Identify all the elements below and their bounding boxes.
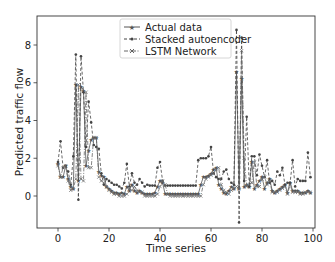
- dot-marker-icon: [75, 53, 78, 56]
- dot-marker-icon: [171, 184, 174, 187]
- dot-marker-icon: [266, 159, 269, 162]
- dot-marker-icon: [299, 180, 302, 183]
- dot-marker-icon: [169, 184, 172, 187]
- dot-marker-icon: [279, 174, 282, 177]
- dot-marker-icon: [136, 183, 139, 186]
- dot-marker-icon: [138, 178, 141, 181]
- dot-marker-icon: [118, 185, 121, 188]
- dot-marker-icon: [141, 181, 144, 184]
- dot-marker-icon: [192, 184, 195, 187]
- dot-marker-icon: [149, 184, 152, 187]
- dot-marker-icon: [77, 198, 80, 201]
- star-marker-icon: ★: [129, 24, 135, 32]
- dot-marker-icon: [197, 159, 200, 162]
- dot-marker-icon: [177, 184, 180, 187]
- dot-marker-icon: [159, 161, 162, 164]
- dot-marker-icon: [253, 155, 256, 158]
- dot-marker-icon: [304, 180, 307, 183]
- dot-marker-icon: [130, 37, 133, 40]
- dot-marker-icon: [100, 172, 103, 175]
- dot-marker-icon: [258, 153, 261, 156]
- dot-marker-icon: [286, 181, 289, 184]
- dot-marker-icon: [115, 183, 118, 186]
- dot-marker-icon: [307, 151, 310, 154]
- dot-marker-icon: [113, 183, 116, 186]
- legend-label: LSTM Network: [145, 46, 217, 57]
- dot-marker-icon: [105, 178, 108, 181]
- dot-marker-icon: [271, 180, 274, 183]
- dot-marker-icon: [281, 166, 284, 169]
- dot-marker-icon: [233, 183, 236, 186]
- dot-marker-icon: [69, 183, 72, 186]
- dot-marker-icon: [243, 180, 246, 183]
- dot-marker-icon: [302, 180, 305, 183]
- dot-marker-icon: [251, 155, 254, 158]
- dot-marker-icon: [189, 184, 192, 187]
- y-tick-label: 4: [25, 115, 31, 126]
- dot-marker-icon: [90, 121, 93, 124]
- dot-marker-icon: [151, 184, 154, 187]
- dot-marker-icon: [187, 184, 190, 187]
- dot-marker-icon: [309, 176, 312, 179]
- dot-marker-icon: [59, 140, 62, 143]
- y-axis-label: Predicted traffic flow: [13, 67, 25, 176]
- dot-marker-icon: [182, 184, 185, 187]
- dot-marker-icon: [238, 221, 241, 224]
- dot-marker-icon: [133, 181, 136, 184]
- dot-marker-icon: [98, 148, 101, 151]
- dot-marker-icon: [202, 157, 205, 160]
- dot-marker-icon: [200, 157, 203, 160]
- dot-marker-icon: [156, 166, 159, 169]
- dot-marker-icon: [174, 184, 177, 187]
- dot-marker-icon: [215, 176, 218, 179]
- legend-label: Actual data: [145, 22, 202, 33]
- star-marker-icon: ★: [86, 147, 91, 154]
- x-tick-label: 60: [205, 233, 218, 244]
- dot-marker-icon: [179, 184, 182, 187]
- dot-marker-icon: [228, 178, 231, 181]
- x-tick-label: 0: [55, 233, 61, 244]
- dot-marker-icon: [194, 184, 197, 187]
- dot-marker-icon: [108, 180, 111, 183]
- dot-marker-icon: [123, 181, 126, 184]
- dot-marker-icon: [87, 100, 90, 103]
- dot-marker-icon: [273, 183, 276, 186]
- dot-marker-icon: [120, 187, 123, 190]
- dot-marker-icon: [126, 163, 129, 166]
- dot-marker-icon: [291, 159, 294, 162]
- dot-marker-icon: [166, 184, 169, 187]
- dot-marker-icon: [245, 115, 248, 118]
- y-tick-label: 0: [25, 191, 31, 202]
- dot-marker-icon: [217, 178, 220, 181]
- dot-marker-icon: [184, 184, 187, 187]
- x-tick-label: 20: [103, 233, 116, 244]
- dot-marker-icon: [261, 165, 264, 168]
- y-tick-label: 6: [25, 77, 31, 88]
- dot-marker-icon: [235, 29, 238, 32]
- dot-marker-icon: [154, 184, 157, 187]
- legend-label: Stacked autoencoder: [145, 34, 252, 45]
- dot-marker-icon: [225, 168, 228, 171]
- dot-marker-icon: [110, 181, 113, 184]
- x-tick-label: 80: [256, 233, 269, 244]
- dot-marker-icon: [210, 146, 213, 149]
- dot-marker-icon: [276, 170, 279, 173]
- y-tick-label: 8: [25, 40, 31, 51]
- dot-marker-icon: [85, 146, 88, 149]
- dot-marker-icon: [67, 170, 70, 173]
- dot-marker-icon: [230, 181, 233, 184]
- dot-marker-icon: [82, 91, 85, 94]
- dot-marker-icon: [222, 170, 225, 173]
- dot-marker-icon: [72, 155, 75, 158]
- star-marker-icon: ★: [239, 75, 244, 82]
- y-tick-label: 2: [25, 153, 31, 164]
- dot-marker-icon: [294, 185, 297, 188]
- dot-marker-icon: [80, 55, 83, 58]
- star-marker-icon: ★: [234, 68, 239, 75]
- dot-marker-icon: [57, 161, 60, 164]
- x-axis-label: Time series: [145, 242, 206, 254]
- x-tick-label: 100: [303, 233, 322, 244]
- dot-marker-icon: [205, 157, 208, 160]
- dot-marker-icon: [207, 155, 210, 158]
- dot-marker-icon: [143, 185, 146, 188]
